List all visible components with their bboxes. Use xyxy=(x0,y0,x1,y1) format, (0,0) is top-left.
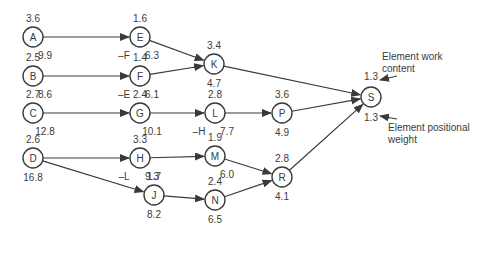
edge-N-R xyxy=(224,181,271,197)
edge-R-S xyxy=(289,104,362,170)
work-content: 1.4 xyxy=(133,52,147,63)
edges xyxy=(43,37,363,199)
positional-weight: 6.5 xyxy=(208,214,222,225)
exclusion-note: –H xyxy=(193,126,206,137)
node-letter: D xyxy=(29,153,36,164)
node-letter: C xyxy=(29,108,36,119)
edge-J-N xyxy=(164,196,204,199)
positional-weight-label-line2: weight xyxy=(387,134,417,145)
work-content: 2.8 xyxy=(275,153,289,164)
edge-P-S xyxy=(292,99,360,111)
node-K: K3.44.7 xyxy=(204,40,224,89)
node-R: R2.84.1 xyxy=(272,153,292,202)
node-letter: J xyxy=(152,190,157,201)
node-letter: L xyxy=(212,108,218,119)
work-content: 2.7 xyxy=(26,89,40,100)
work-content-label-line1: Element work xyxy=(382,51,444,62)
edge-K-S xyxy=(224,66,360,95)
node-letter: A xyxy=(30,32,37,43)
node-letter: G xyxy=(136,108,144,119)
work-content: 1.6 xyxy=(133,13,147,24)
positional-weight: 4.9 xyxy=(275,127,289,138)
positional-weight: 1.3 xyxy=(364,112,378,123)
positional-weight: 6.0 xyxy=(220,169,234,180)
positional-weight-pointer xyxy=(380,116,397,119)
positional-weight: 6.1 xyxy=(145,89,159,100)
node-letter: B xyxy=(30,71,37,82)
positional-weight: 8.2 xyxy=(147,209,161,220)
work-content-pointer xyxy=(380,76,397,80)
exclusion-note: –E xyxy=(118,89,131,100)
edge-H-M xyxy=(150,156,204,157)
positional-weight: 9.9 xyxy=(38,50,52,61)
node-letter: F xyxy=(137,71,143,82)
positional-weight-label-line1: Element positional xyxy=(388,122,470,133)
work-content: 2.4 xyxy=(208,176,222,187)
work-content: 2.6 xyxy=(26,134,40,145)
exclusion-note: –F xyxy=(118,50,130,61)
node-letter: S xyxy=(368,92,375,103)
node-P: P3.64.9 xyxy=(272,89,292,138)
work-content: 3.3 xyxy=(133,134,147,145)
positional-weight: 7.7 xyxy=(220,126,234,137)
node-N: N2.46.5 xyxy=(205,176,225,225)
positional-weight: 6.3 xyxy=(145,50,159,61)
nodes: A3.69.9B2.58.6C2.712.8D2.616.8E1.66.3–FF… xyxy=(23,13,381,225)
node-letter: P xyxy=(279,108,286,119)
node-letter: R xyxy=(278,172,285,183)
work-content: 3.6 xyxy=(26,13,40,24)
node-J: J1.78.2 xyxy=(144,171,164,220)
work-content: 2.4 xyxy=(133,89,147,100)
work-content: 3.6 xyxy=(275,89,289,100)
node-letter: E xyxy=(137,32,144,43)
node-letter: K xyxy=(211,59,218,70)
node-letter: M xyxy=(211,151,219,162)
positional-weight: 4.1 xyxy=(275,191,289,202)
positional-weight: 8.6 xyxy=(38,89,52,100)
node-S: S1.31.3 xyxy=(361,71,381,123)
work-content: 2.5 xyxy=(26,52,40,63)
work-content: 2.8 xyxy=(208,89,222,100)
work-content: 1.7 xyxy=(147,171,161,182)
exclusion-note: –L xyxy=(118,171,130,182)
node-letter: H xyxy=(136,153,143,164)
work-content: 1.3 xyxy=(364,71,378,82)
annotations: Element work content Element positional … xyxy=(380,51,470,145)
work-content: 1.9 xyxy=(208,132,222,143)
work-content-label-line2: content xyxy=(382,63,415,74)
positional-weight: 16.8 xyxy=(23,172,43,183)
edge-F-K xyxy=(150,66,203,75)
positional-weight: 4.7 xyxy=(207,78,221,89)
precedence-diagram: A3.69.9B2.58.6C2.712.8D2.616.8E1.66.3–FF… xyxy=(0,0,492,263)
node-letter: N xyxy=(211,195,218,206)
node-M: M1.96.0 xyxy=(205,132,234,180)
work-content: 3.4 xyxy=(207,40,221,51)
node-D: D2.616.8 xyxy=(23,134,43,183)
